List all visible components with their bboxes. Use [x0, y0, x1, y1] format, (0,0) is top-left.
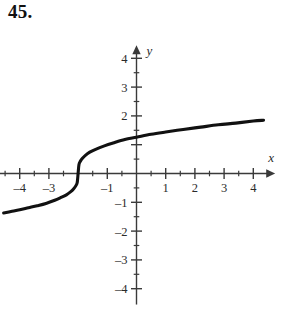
x-tick-label: 2	[192, 181, 198, 195]
figure-root: 45. –4–3–11234 432–1–2–3–4 x y	[0, 0, 282, 310]
x-tick-label: –4	[12, 181, 26, 195]
y-tick-label: –1	[114, 196, 128, 210]
x-axis-label: x	[267, 150, 274, 165]
graph-svg: –4–3–11234 432–1–2–3–4 x y	[0, 0, 282, 310]
x-axis	[0, 169, 275, 177]
y-axis-label: y	[145, 43, 153, 58]
x-tick-label: –3	[42, 181, 56, 195]
function-curve	[4, 120, 264, 213]
coordinate-plot: –4–3–11234 432–1–2–3–4 x y	[0, 0, 282, 310]
y-tick-label: –3	[114, 253, 128, 267]
x-tick-label: 1	[163, 181, 169, 195]
y-tick-label: –2	[114, 225, 128, 239]
x-tick-label: 3	[221, 181, 227, 195]
y-tick-label: –4	[114, 282, 128, 296]
y-tick-label: 4	[121, 52, 128, 66]
y-axis	[132, 45, 140, 304]
y-axis-arrow-icon	[132, 45, 140, 54]
y-tick-label: 2	[121, 109, 127, 123]
y-tick-label: 3	[121, 81, 127, 95]
x-tick-label: –1	[100, 181, 114, 195]
x-tick-label: 4	[250, 181, 257, 195]
